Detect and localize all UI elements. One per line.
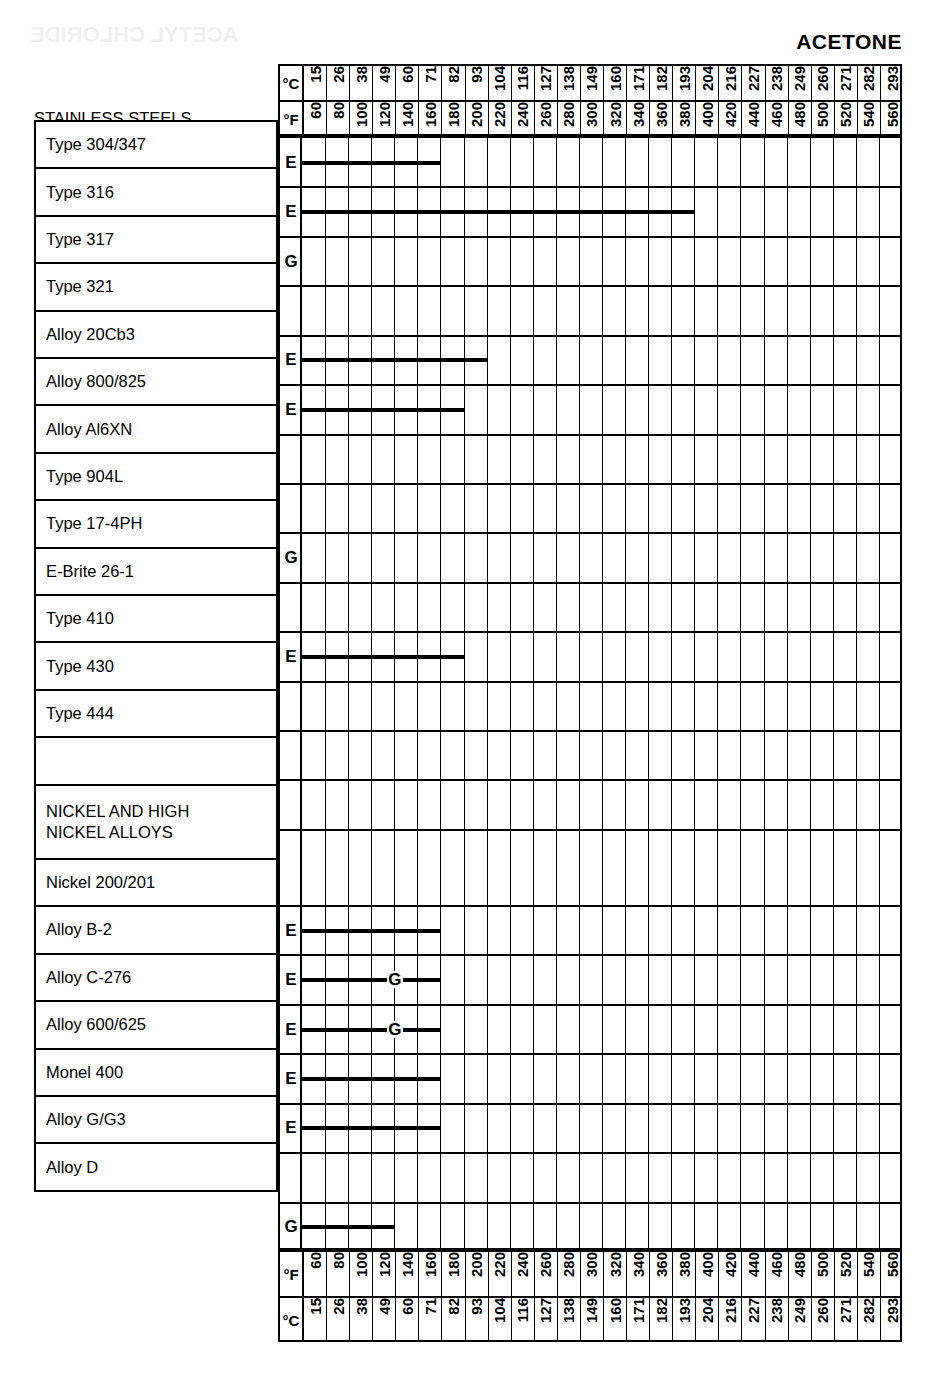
grid-row-separator <box>280 384 900 386</box>
bottom-celsius-tick: 227 <box>742 1298 765 1342</box>
top-celsius-tick: 282 <box>858 66 881 100</box>
rating-letter: G <box>280 237 302 286</box>
top-fahrenheit-tick-label: 320 <box>608 102 623 129</box>
material-row-label[interactable]: Alloy B-2 <box>34 905 278 954</box>
material-row-label[interactable]: Type 430 <box>34 641 278 690</box>
material-row-label[interactable]: Alloy 600/625 <box>34 1000 278 1049</box>
top-fahrenheit-tick-label: 360 <box>654 102 669 129</box>
rating-letter: G <box>280 1203 302 1252</box>
bottom-fahrenheit-tick: 420 <box>719 1252 742 1296</box>
bottom-celsius-tick: 38 <box>350 1298 373 1342</box>
top-celsius-tick: 15 <box>304 66 327 100</box>
material-row-label[interactable]: Type 321 <box>34 262 278 311</box>
grid-vertical-line <box>533 138 534 1248</box>
bottom-celsius-tick: 293 <box>881 1298 904 1342</box>
bottom-fahrenheit-tick: 380 <box>673 1252 696 1296</box>
grid-vertical-line <box>464 138 465 1248</box>
bottom-celsius-tick: 182 <box>650 1298 673 1342</box>
bottom-fahrenheit-tick-label: 440 <box>746 1252 761 1279</box>
bottom-fahrenheit-unit-label: °F <box>280 1252 302 1298</box>
material-row-label[interactable]: Type 444 <box>34 689 278 738</box>
bottom-fahrenheit-tick: 220 <box>489 1252 512 1296</box>
material-row-label[interactable]: Nickel 200/201 <box>34 858 278 907</box>
top-fahrenheit-tick-label: 540 <box>861 102 876 129</box>
material-row-label[interactable]: Alloy G/G3 <box>34 1095 278 1144</box>
bottom-fahrenheit-scale: 6080100120140160180200220240260280300320… <box>302 1252 900 1298</box>
grid-row-separator <box>280 779 900 781</box>
material-row-label[interactable]: Type 316 <box>34 167 278 216</box>
temperature-range-bar <box>302 1126 440 1130</box>
bottom-celsius-tick: 49 <box>373 1298 396 1342</box>
grid-vertical-line <box>371 138 372 1248</box>
bottom-fahrenheit-tick-label: 180 <box>446 1252 461 1279</box>
bottom-fahrenheit-tick: 520 <box>835 1252 858 1296</box>
top-fahrenheit-tick: 460 <box>766 102 789 136</box>
material-label-column: Type 304/347Type 316Type 317Type 321Allo… <box>34 120 278 1190</box>
temperature-range-bar <box>302 210 694 214</box>
material-name: Alloy Al6XN <box>46 420 132 439</box>
top-fahrenheit-tick-label: 100 <box>354 102 369 129</box>
top-celsius-tick: 26 <box>327 66 350 100</box>
bottom-fahrenheit-tick: 460 <box>766 1252 789 1296</box>
top-celsius-tick-label: 38 <box>354 66 369 85</box>
top-celsius-unit-label: °C <box>280 66 302 102</box>
top-celsius-tick: 71 <box>419 66 442 100</box>
bottom-celsius-unit-label: °C <box>280 1298 302 1342</box>
bottom-celsius-tick-label: 49 <box>377 1298 392 1317</box>
temperature-range-bar <box>302 358 487 362</box>
top-celsius-scale: 1526384960718293104116127138149160171182… <box>302 66 900 102</box>
top-celsius-tick-label: 93 <box>469 66 484 85</box>
top-fahrenheit-tick-label: 80 <box>331 102 346 121</box>
grid-vertical-line <box>556 138 557 1248</box>
top-fahrenheit-tick-label: 340 <box>631 102 646 129</box>
material-row-label[interactable]: Type 304/347 <box>34 120 278 169</box>
material-row-label[interactable]: Type 904L <box>34 452 278 501</box>
bottom-fahrenheit-tick-label: 380 <box>677 1252 692 1279</box>
top-fahrenheit-tick: 400 <box>696 102 719 136</box>
bottom-celsius-tick: 149 <box>581 1298 604 1342</box>
material-row-label[interactable]: E-Brite 26-1 <box>34 547 278 596</box>
bottom-fahrenheit-tick: 240 <box>512 1252 535 1296</box>
bottom-celsius-tick: 116 <box>512 1298 535 1342</box>
material-row-label[interactable]: Alloy D <box>34 1142 278 1191</box>
material-section-header[interactable]: NICKEL AND HIGHNICKEL ALLOYS <box>34 784 278 860</box>
material-name: Type 321 <box>46 277 114 296</box>
temperature-range-bar <box>302 655 464 659</box>
top-fahrenheit-tick: 60 <box>304 102 327 136</box>
material-row-label[interactable]: Monel 400 <box>34 1048 278 1097</box>
material-name: Type 316 <box>46 183 114 202</box>
material-name: Type 17-4PH <box>46 514 142 533</box>
bottom-fahrenheit-tick-label: 540 <box>861 1252 876 1279</box>
bottom-fahrenheit-tick-label: 420 <box>723 1252 738 1279</box>
plot-area: GG <box>302 138 900 1248</box>
grid-vertical-line <box>833 138 834 1248</box>
rating-column: EEGEEGEEEEEEG <box>280 138 302 1248</box>
top-celsius-tick: 216 <box>719 66 742 100</box>
bottom-celsius-tick-label: 249 <box>792 1298 807 1325</box>
material-row-label[interactable]: Alloy Al6XN <box>34 404 278 453</box>
bottom-celsius-tick-label: 127 <box>538 1298 553 1325</box>
material-row-label[interactable]: Alloy C-276 <box>34 953 278 1002</box>
bottom-fahrenheit-tick-label: 500 <box>815 1252 830 1279</box>
bottom-celsius-tick: 260 <box>812 1298 835 1342</box>
top-celsius-tick: 171 <box>627 66 650 100</box>
bottom-celsius-tick-label: 82 <box>446 1298 461 1317</box>
material-row-label[interactable]: Alloy 20Cb3 <box>34 310 278 359</box>
material-row-label[interactable]: Type 410 <box>34 594 278 643</box>
bottom-celsius-tick-label: 293 <box>885 1298 900 1325</box>
material-row-label[interactable]: Type 317 <box>34 215 278 264</box>
bottom-celsius-tick-label: 182 <box>654 1298 669 1325</box>
temperature-range-bar <box>302 1077 440 1081</box>
bottom-celsius-tick-label: 271 <box>838 1298 853 1325</box>
top-celsius-tick: 260 <box>812 66 835 100</box>
material-name: Alloy B-2 <box>46 920 112 939</box>
bottom-fahrenheit-tick: 320 <box>604 1252 627 1296</box>
material-row-label[interactable]: Type 17-4PH <box>34 499 278 548</box>
top-fahrenheit-tick: 220 <box>489 102 512 136</box>
bottom-fahrenheit-tick-label: 400 <box>700 1252 715 1279</box>
bottom-fahrenheit-tick-label: 140 <box>400 1252 415 1279</box>
grid-row-separator <box>280 1103 900 1105</box>
grid-vertical-line <box>648 138 649 1248</box>
bottom-fahrenheit-tick-label: 560 <box>885 1252 900 1279</box>
material-row-label[interactable]: Alloy 800/825 <box>34 357 278 406</box>
